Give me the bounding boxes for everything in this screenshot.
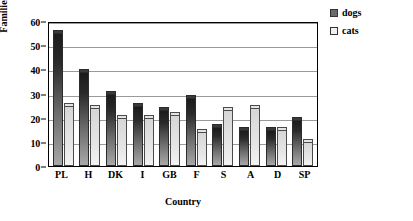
bar-s-dogs[interactable]	[212, 124, 222, 166]
y-tick-mark	[41, 46, 46, 47]
bar-group	[266, 23, 287, 166]
bar-gb-cats[interactable]	[170, 112, 180, 166]
bar-group	[79, 23, 100, 166]
bar-a-dogs[interactable]	[239, 127, 249, 166]
bar-group	[212, 23, 233, 166]
bar-body	[170, 115, 180, 166]
bar-group	[239, 23, 260, 166]
y-tick-mark	[41, 94, 46, 95]
y-tick-mark	[41, 167, 46, 168]
y-tick-mark	[41, 118, 46, 119]
x-tick-label-pl: PL	[48, 169, 75, 180]
bar-group	[159, 23, 180, 166]
bar-d-cats[interactable]	[277, 127, 287, 166]
bar-group	[133, 23, 154, 166]
bar-dk-cats[interactable]	[117, 115, 127, 166]
bar-body	[159, 110, 169, 166]
x-axis-label: Country	[48, 196, 318, 207]
bar-d-dogs[interactable]	[266, 127, 276, 166]
bar-a-cats[interactable]	[250, 105, 260, 166]
bar-group	[106, 23, 127, 166]
bar-pl-dogs[interactable]	[53, 30, 63, 166]
bar-body	[133, 106, 143, 166]
bar-sp-dogs[interactable]	[292, 117, 302, 166]
x-tick-label-a: A	[237, 169, 264, 180]
y-tick-mark	[41, 22, 46, 23]
legend-item-cats[interactable]: cats	[330, 25, 361, 36]
bar-f-dogs[interactable]	[186, 95, 196, 166]
y-tick-label: 20	[30, 113, 40, 124]
bar-s-cats[interactable]	[223, 107, 233, 166]
y-tick-mark	[41, 70, 46, 71]
bar-group	[53, 23, 74, 166]
bar-body	[117, 118, 127, 166]
bar-body	[64, 106, 74, 166]
bar-body	[79, 72, 89, 166]
legend-swatch-dogs-icon	[330, 9, 338, 17]
bar-body	[53, 33, 63, 166]
bar-sp-cats[interactable]	[303, 139, 313, 166]
bar-body	[223, 110, 233, 166]
y-tick-label: 0	[35, 162, 40, 173]
x-axis-ticks: PLHDKIGBFSADSP	[48, 169, 318, 180]
x-tick-label-h: H	[75, 169, 102, 180]
bar-body	[106, 94, 116, 167]
bar-body	[197, 132, 207, 166]
x-tick-label-gb: GB	[156, 169, 183, 180]
bar-body	[292, 120, 302, 166]
bar-gb-dogs[interactable]	[159, 107, 169, 166]
legend-item-dogs[interactable]: dogs	[330, 7, 361, 18]
bar-pl-cats[interactable]	[64, 103, 74, 166]
x-tick-label-i: I	[129, 169, 156, 180]
bar-h-dogs[interactable]	[79, 69, 89, 166]
legend-swatch-cats-icon	[330, 27, 338, 35]
y-tick-label: 60	[30, 17, 40, 28]
bar-body	[239, 130, 249, 166]
bar-i-cats[interactable]	[144, 115, 154, 166]
bar-body	[277, 130, 287, 166]
x-tick-label-sp: SP	[291, 169, 318, 180]
y-tick-label: 30	[30, 89, 40, 100]
bar-body	[90, 108, 100, 166]
x-tick-label-d: D	[264, 169, 291, 180]
x-tick-label-dk: DK	[102, 169, 129, 180]
y-tick-label: 10	[30, 137, 40, 148]
plot-area	[48, 22, 318, 167]
bar-body	[266, 130, 276, 166]
legend-label-dogs: dogs	[342, 7, 361, 18]
bar-body	[186, 98, 196, 166]
bar-body	[250, 108, 260, 166]
bar-groups	[49, 23, 317, 166]
y-axis-ticks: 0102030405060	[0, 22, 46, 167]
bar-group	[292, 23, 313, 166]
bar-h-cats[interactable]	[90, 105, 100, 166]
bar-body	[212, 127, 222, 166]
bar-body	[144, 118, 154, 166]
bar-i-dogs[interactable]	[133, 103, 143, 166]
chart-container: Families [%] 0102030405060 PLHDKIGBFSADS…	[0, 0, 413, 221]
bar-group	[186, 23, 207, 166]
x-tick-label-f: F	[183, 169, 210, 180]
y-tick-label: 40	[30, 65, 40, 76]
x-tick-label-s: S	[210, 169, 237, 180]
legend: dogs cats	[330, 7, 361, 43]
y-tick-mark	[41, 142, 46, 143]
bar-body	[303, 142, 313, 166]
bar-dk-dogs[interactable]	[106, 91, 116, 167]
y-tick-label: 50	[30, 41, 40, 52]
legend-label-cats: cats	[342, 25, 359, 36]
bar-f-cats[interactable]	[197, 129, 207, 166]
